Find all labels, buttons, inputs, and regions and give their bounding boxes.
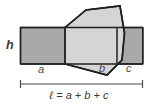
label-height-h: h: [6, 38, 14, 52]
label-segment-a: a: [38, 63, 44, 75]
formula-length: ℓ = a + b + c: [49, 89, 109, 101]
geometry-figure: h a b c ℓ = a + b + c: [0, 0, 158, 104]
label-segment-b: b: [99, 62, 105, 74]
diagram-canvas: h a b c ℓ = a + b + c: [0, 0, 158, 104]
segment-a-rect: [21, 28, 66, 65]
label-segment-c: c: [126, 62, 132, 74]
segment-b-band: [65, 28, 117, 65]
